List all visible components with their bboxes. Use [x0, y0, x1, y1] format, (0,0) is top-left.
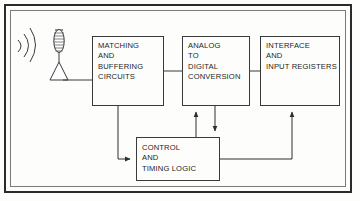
block-control-line-3: TIMING LOGIC: [142, 164, 219, 174]
block-adc-line-3: DIGITAL: [188, 62, 249, 72]
block-matching-and-buffering-circuits[interactable]: MATCHING AND BUFFERING CIRCUITS: [92, 36, 164, 106]
antenna-symbol: [18, 28, 68, 80]
block-matching-line-4: CIRCUITS: [98, 72, 163, 82]
block-matching-line-1: MATCHING: [98, 41, 163, 51]
block-interface-line-1: INTERFACE: [266, 41, 339, 51]
block-interface-line-3: INPUT REGISTERS: [266, 62, 339, 72]
block-control-line-1: CONTROL: [142, 143, 219, 153]
block-matching-line-3: BUFFERING: [98, 62, 163, 72]
block-adc-line-1: ANALOG: [188, 41, 249, 51]
block-diagram-figure: MATCHING AND BUFFERING CIRCUITS ANALOG T…: [0, 0, 360, 201]
link-matching-to-control: [118, 106, 130, 159]
block-adc-line-4: CONVERSION: [188, 72, 249, 82]
link-control-to-interface: [220, 112, 292, 159]
block-interface-and-input-registers[interactable]: INTERFACE AND INPUT REGISTERS: [260, 36, 340, 106]
block-matching-line-2: AND: [98, 51, 163, 61]
block-control-line-2: AND: [142, 153, 219, 163]
block-control-and-timing-logic[interactable]: CONTROL AND TIMING LOGIC: [136, 137, 220, 181]
block-interface-line-2: AND: [266, 51, 339, 61]
block-analog-to-digital-conversion[interactable]: ANALOG TO DIGITAL CONVERSION: [182, 36, 250, 106]
block-adc-line-2: TO: [188, 51, 249, 61]
